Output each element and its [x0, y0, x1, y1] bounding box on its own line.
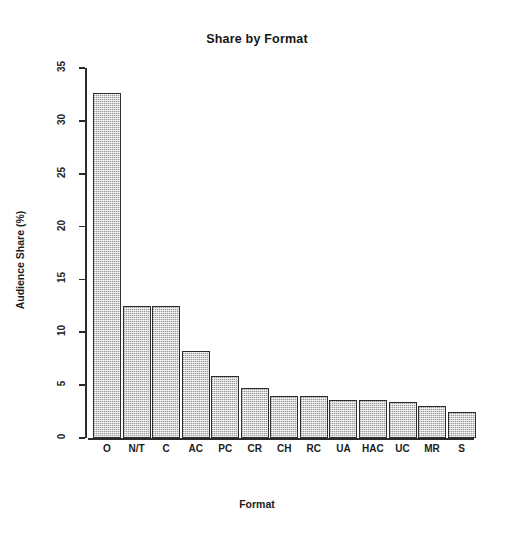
bar[interactable] [123, 306, 151, 438]
bar[interactable] [93, 93, 121, 438]
y-axis-tick [79, 437, 85, 439]
y-axis-tick [79, 120, 85, 122]
bar[interactable] [418, 406, 446, 438]
x-axis-line [88, 438, 474, 440]
y-axis-tick-label: 0 [56, 422, 67, 452]
bar[interactable] [241, 388, 269, 438]
y-axis-title: Audience Share (%) [14, 0, 32, 150]
y-axis-title-text: Audience Share (%) [14, 150, 26, 370]
bar[interactable] [329, 400, 357, 438]
bar[interactable] [211, 376, 239, 438]
y-axis-tick [79, 279, 85, 281]
y-axis-tick-label: 10 [56, 316, 67, 346]
chart-figure: Share by Format Audience Share (%) 05101… [0, 0, 514, 544]
y-axis-tick-label: 25 [56, 157, 67, 187]
bar[interactable] [270, 396, 298, 438]
bar[interactable] [389, 402, 417, 438]
y-axis-tick [79, 67, 85, 69]
y-axis-tick [79, 384, 85, 386]
bar[interactable] [152, 306, 180, 438]
y-axis-tick-label: 35 [56, 52, 67, 82]
y-axis-tick-label: 20 [56, 210, 67, 240]
y-axis-tick-label: 30 [56, 104, 67, 134]
x-axis-tick-label: S [439, 443, 485, 454]
y-axis-tick-label: 5 [56, 369, 67, 399]
y-axis-tick [79, 173, 85, 175]
x-axis-title: Format [0, 498, 514, 510]
y-axis-tick [79, 331, 85, 333]
y-axis-line [85, 68, 87, 438]
bar[interactable] [359, 400, 387, 438]
plot-area [93, 68, 473, 438]
bar[interactable] [300, 396, 328, 438]
y-axis-tick-label: 15 [56, 263, 67, 293]
bar[interactable] [182, 351, 210, 438]
y-axis-tick [79, 226, 85, 228]
bar[interactable] [448, 412, 476, 438]
chart-title: Share by Format [0, 32, 514, 46]
